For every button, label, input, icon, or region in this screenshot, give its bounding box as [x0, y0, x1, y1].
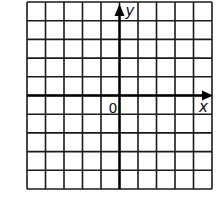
coordinate-grid: x y 0	[0, 0, 219, 205]
y-axis-label: y	[125, 2, 136, 20]
x-axis-label: x	[198, 98, 208, 116]
y-axis-arrow-icon	[115, 4, 125, 16]
origin-label: 0	[109, 100, 118, 116]
